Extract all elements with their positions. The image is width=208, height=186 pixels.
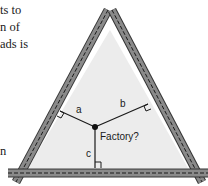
- label-factory: Factory?: [100, 131, 139, 142]
- label-c: c: [86, 148, 91, 159]
- triangle-region: [28, 30, 188, 168]
- label-b: b: [120, 98, 126, 109]
- label-a: a: [76, 104, 82, 115]
- factory-location-diagram: a b c Factory?: [0, 0, 208, 186]
- factory-point: [92, 124, 98, 130]
